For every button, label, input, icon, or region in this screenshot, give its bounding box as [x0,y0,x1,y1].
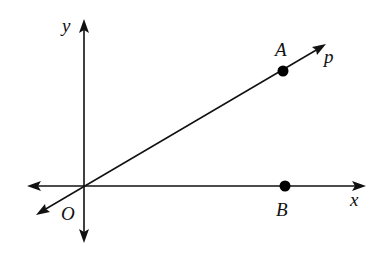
line-p-lower-arrow-icon [36,204,50,215]
point-b [280,181,291,192]
origin-label: O [61,203,75,224]
coordinate-diagram: y x O A B p [0,0,379,254]
x-axis-label: x [349,189,359,210]
y-axis [79,19,89,243]
point-a-label: A [273,39,287,60]
point-b-label: B [276,199,288,220]
y-axis-label: y [60,15,71,36]
line-p-label: p [322,46,334,67]
point-a [278,66,289,77]
